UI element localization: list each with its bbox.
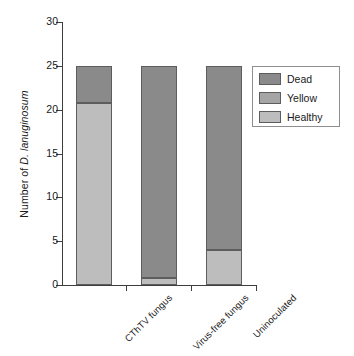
x-tick-2 <box>191 285 192 291</box>
bar-segment-dead[interactable] <box>206 66 242 250</box>
x-tick-3 <box>256 285 257 291</box>
x-axis-label-uninoculated: Uninoculated <box>251 292 299 340</box>
legend-swatch-dead-icon <box>259 73 281 85</box>
y-tick-label-0: 0 <box>52 278 58 290</box>
y-axis-title: Number of D. lanuginosum <box>18 44 30 264</box>
y-axis-line <box>62 22 63 286</box>
y-tick-label-25: 25 <box>46 59 58 71</box>
x-axis-label-virus-free-fungus: Virus-free fungus <box>191 292 251 352</box>
legend: Dead Yellow Healthy <box>252 66 340 127</box>
y-tick-label-15: 15 <box>46 147 58 159</box>
y-axis-title-species: D. lanuginosum <box>18 90 30 164</box>
legend-item-yellow[interactable]: Yellow <box>259 90 317 105</box>
y-tick-label-5: 5 <box>52 234 58 246</box>
stacked-bar-chart: Number of D. lanuginosum 30 25 20 15 10 <box>0 0 354 356</box>
bar-segment-dead[interactable] <box>76 66 112 103</box>
bar-segment-dead[interactable] <box>141 66 177 278</box>
y-tick-label-30: 30 <box>46 15 58 27</box>
bar-segment-healthy[interactable] <box>141 278 177 285</box>
plot-area: 30 25 20 15 10 5 0 <box>62 22 256 285</box>
legend-swatch-healthy-icon <box>259 111 281 123</box>
x-axis-line <box>62 285 257 286</box>
bar-segment-healthy[interactable] <box>206 250 242 285</box>
y-axis-title-prefix: Number of <box>18 165 30 218</box>
legend-label-yellow: Yellow <box>287 92 317 104</box>
bar-uninoculated[interactable] <box>206 22 242 285</box>
bar-segment-healthy[interactable] <box>76 103 112 285</box>
y-tick-label-20: 20 <box>46 103 58 115</box>
legend-swatch-yellow-icon <box>259 92 281 104</box>
y-tick-label-10: 10 <box>46 190 58 202</box>
legend-label-dead: Dead <box>287 73 312 85</box>
legend-label-healthy: Healthy <box>287 111 323 123</box>
x-axis-label-cthtv-fungus: CThTV fungus <box>122 292 174 344</box>
bar-virus-free-fungus[interactable] <box>141 22 177 285</box>
x-tick-1 <box>126 285 127 291</box>
legend-item-healthy[interactable]: Healthy <box>259 109 323 124</box>
bar-cthtv-fungus[interactable] <box>76 22 112 285</box>
legend-item-dead[interactable]: Dead <box>259 71 312 86</box>
